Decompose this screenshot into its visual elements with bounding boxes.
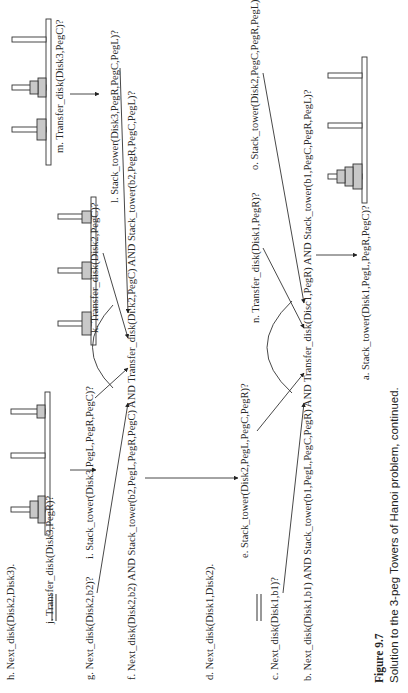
disk (30, 501, 38, 518)
label-e: e. Stack_tower(Disk2,PegL,PegC,PegR)? (239, 383, 251, 558)
tower-base (46, 19, 51, 165)
disk (37, 405, 45, 418)
disk (30, 81, 38, 94)
disk (38, 78, 46, 97)
label-k: k. Transfer_disk(Disk2,PegC)? (89, 202, 101, 333)
and-arc-b (267, 301, 292, 393)
tower-diagram-final (328, 57, 367, 203)
label-b: b. Next_disk(Disk1,b1) AND Stack_tower(b… (302, 89, 314, 681)
tower-base (362, 57, 367, 203)
tower-diagram-m (12, 19, 51, 165)
label-l: l. Stack_tower(Disk3,PegR,PegC,PegL)? (109, 30, 121, 203)
disk (345, 167, 353, 186)
label-m: m. Transfer_disk(Disk3,PegC)? (54, 19, 66, 153)
figure-caption: Solution to the 3-peg Towers of Hanoi pr… (388, 387, 400, 683)
label-h: h. Next_disk(Disk2,Disk3). (5, 564, 17, 680)
label-g: g. Next_disk(Disk2,b2)? (84, 576, 96, 680)
label-j: j. Transfer_disk(Disk3,PegR)? (44, 496, 56, 625)
disk (337, 170, 345, 183)
label-n: n. Transfer_disk(Disk1,PegR)? (250, 192, 262, 323)
peg-right (328, 73, 362, 78)
disk (37, 119, 46, 140)
label-c: c. Next_disk(Disk1,b1)? (269, 577, 281, 680)
peg-center (11, 453, 45, 458)
label-f: f. Next_disk(Disk2,b2) AND Stack_tower(b… (126, 91, 138, 680)
disk (353, 164, 362, 189)
figure-canvas: h. Next_disk(Disk2,Disk3). g. Next_disk(… (0, 0, 408, 693)
figure-number: Figure 9.7 (373, 633, 386, 683)
label-d: d. Next_disk(Disk1,Disk2). (204, 564, 216, 680)
diagram-svg: h. Next_disk(Disk2,Disk3). g. Next_disk(… (0, 0, 408, 693)
label-a: a. Stack_tower(Disk1,PegL,PegR,PegC)? (360, 205, 372, 380)
peg-center (328, 123, 362, 128)
label-o: o. Stack_tower(Disk2,PegC,PegR,PegL)? (249, 0, 261, 170)
label-i: i. Stack_tower(Disk3,PegL,PegR,PegC)? (84, 386, 96, 559)
peg-right (12, 37, 46, 42)
